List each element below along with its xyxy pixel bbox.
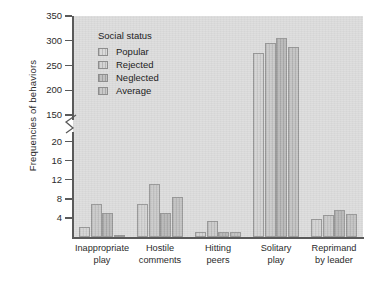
y-tick-label: 12 bbox=[32, 175, 62, 185]
axis-break-icon bbox=[64, 113, 80, 135]
legend-entry: Rejected bbox=[98, 60, 159, 70]
x-axis-category-label-line: Solitary bbox=[261, 243, 292, 253]
bar bbox=[160, 213, 171, 237]
x-axis-line bbox=[72, 237, 364, 239]
x-axis-category-label-line: by leader bbox=[297, 255, 371, 267]
legend-swatch-icon bbox=[98, 48, 108, 56]
bar bbox=[346, 214, 357, 237]
legend-entry-label: Rejected bbox=[116, 60, 154, 70]
y-tick-label: 200 bbox=[32, 85, 62, 95]
bar bbox=[79, 227, 90, 237]
y-tick-mark bbox=[65, 40, 72, 41]
bar bbox=[172, 197, 183, 237]
x-axis-category-label: Reprimandby leader bbox=[297, 243, 371, 266]
legend-swatch-icon bbox=[98, 87, 108, 95]
y-tick-label: 8 bbox=[32, 194, 62, 204]
legend-entries: PopularRejectedNeglectedAverage bbox=[98, 47, 159, 96]
y-axis-line-lower bbox=[72, 132, 74, 238]
y-tick-mark bbox=[65, 65, 72, 66]
x-axis-category-label-line: Hitting bbox=[205, 243, 231, 253]
y-tick-label: 20 bbox=[32, 137, 62, 147]
y-tick-label: 350 bbox=[32, 11, 62, 21]
x-axis-category-label-line: Hostile bbox=[146, 243, 174, 253]
y-tick-label: 16 bbox=[32, 156, 62, 166]
legend-entry-label: Neglected bbox=[116, 73, 159, 83]
y-tick-mark bbox=[65, 217, 72, 218]
x-axis-category-label-line: Inappropriate bbox=[75, 243, 129, 253]
x-axis-category-label-line: Reprimand bbox=[312, 243, 357, 253]
y-tick-mark bbox=[65, 90, 72, 91]
legend-entry: Average bbox=[98, 86, 159, 96]
y-tick-label: 250 bbox=[32, 61, 62, 71]
bar bbox=[149, 184, 160, 237]
bar bbox=[137, 204, 148, 237]
y-tick-mark bbox=[65, 198, 72, 199]
legend-swatch-icon bbox=[98, 61, 108, 69]
bar bbox=[311, 219, 322, 237]
y-tick-mark bbox=[65, 141, 72, 142]
y-tick-label: 300 bbox=[32, 36, 62, 46]
y-tick-label: 4 bbox=[32, 213, 62, 223]
bar bbox=[207, 221, 218, 237]
bar bbox=[253, 53, 264, 237]
bar bbox=[276, 38, 287, 237]
bar bbox=[265, 43, 276, 237]
legend-entry: Popular bbox=[98, 47, 159, 57]
y-tick-mark bbox=[65, 15, 72, 16]
bar bbox=[102, 213, 113, 237]
legend-swatch-icon bbox=[98, 74, 108, 82]
y-tick-mark bbox=[65, 114, 72, 115]
y-tick-mark bbox=[65, 160, 72, 161]
bar bbox=[91, 204, 102, 237]
y-tick-mark bbox=[65, 179, 72, 180]
legend-entry: Neglected bbox=[98, 73, 159, 83]
y-tick-label: 150 bbox=[32, 110, 62, 120]
y-axis-line-upper bbox=[72, 16, 74, 120]
legend-entry-label: Average bbox=[116, 86, 151, 96]
bar bbox=[334, 210, 345, 237]
legend-title: Social status bbox=[98, 30, 159, 41]
bar bbox=[323, 215, 334, 237]
bar bbox=[288, 47, 299, 237]
legend: Social status PopularRejectedNeglectedAv… bbox=[98, 30, 159, 99]
bar-chart-figure: Frequencies of behaviors 481216201502002… bbox=[0, 0, 383, 281]
legend-entry-label: Popular bbox=[116, 47, 149, 57]
